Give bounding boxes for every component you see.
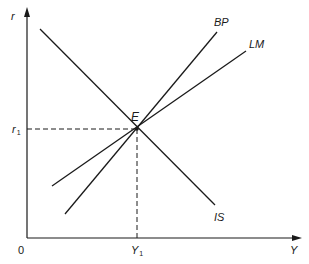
is-curve-label: IS xyxy=(214,212,224,223)
origin-label: 0 xyxy=(18,245,24,256)
is-curve xyxy=(40,29,215,205)
bp-curve-label: BP xyxy=(214,17,229,28)
y1-label-subscript: 1 xyxy=(139,250,143,257)
equilibrium-label: E xyxy=(131,111,139,123)
r1-label: r1 xyxy=(12,124,21,136)
equilibrium-point xyxy=(135,127,139,131)
r1-label-main: r xyxy=(12,123,16,135)
y-axis-label: r xyxy=(11,11,15,22)
x-axis-label: Y xyxy=(290,245,297,256)
y-axis-arrow-icon xyxy=(24,7,30,17)
y1-label-main: Y xyxy=(131,244,138,256)
lm-curve-label: LM xyxy=(249,39,264,50)
y1-label: Y1 xyxy=(131,245,143,257)
bp-curve xyxy=(65,32,217,214)
r1-label-subscript: 1 xyxy=(17,129,21,136)
x-axis-arrow-icon xyxy=(292,235,302,241)
